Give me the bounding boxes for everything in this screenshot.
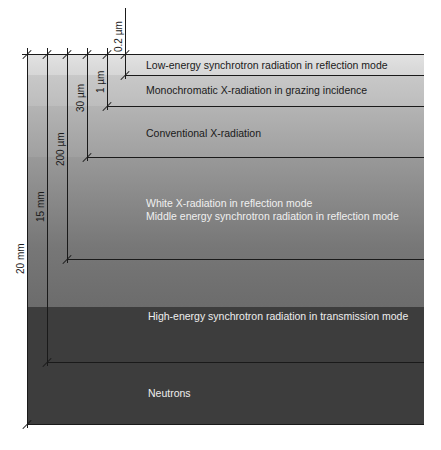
dim-line-15mm bbox=[47, 48, 48, 366]
line-200um bbox=[67, 259, 424, 260]
layer-label-white-xray: White X-radiation in reflection mode bbox=[146, 197, 312, 209]
layer-label-conventional: Conventional X-radiation bbox=[146, 127, 261, 139]
layer-label-neutrons: Neutrons bbox=[148, 387, 191, 399]
dim-label-15mm: 15 mm bbox=[35, 191, 46, 222]
line-0 bbox=[22, 54, 424, 55]
band-high-energy bbox=[27, 307, 424, 424]
line-30um bbox=[87, 157, 424, 158]
layer-label-middle-energy: Middle energy synchrotron radiation in r… bbox=[146, 210, 399, 222]
layer-label-high-energy: High-energy synchrotron radiation in tra… bbox=[148, 310, 408, 322]
dim-line-0-2um bbox=[125, 8, 126, 79]
line-15mm bbox=[47, 362, 424, 363]
line-1um bbox=[107, 106, 424, 107]
line-20mm bbox=[27, 424, 424, 425]
layer-label-monochromatic: Monochromatic X-radiation in grazing inc… bbox=[146, 84, 367, 96]
dim-label-200um: 200 µm bbox=[55, 132, 66, 166]
line-0-2um bbox=[125, 75, 424, 76]
dim-line-30um bbox=[87, 48, 88, 161]
dim-label-20mm: 20 mm bbox=[15, 243, 26, 274]
dim-label-1um: 1 µm bbox=[95, 71, 106, 93]
dim-label-0-2um: 0.2 µm bbox=[113, 21, 124, 52]
dim-line-200um bbox=[67, 48, 68, 263]
layer-label-low-energy: Low-energy synchrotron radiation in refl… bbox=[146, 59, 388, 71]
band-white-xray bbox=[27, 157, 424, 307]
dim-label-30um: 30 µm bbox=[75, 84, 86, 112]
dim-line-20mm bbox=[27, 48, 28, 428]
dim-line-1um bbox=[107, 48, 108, 110]
